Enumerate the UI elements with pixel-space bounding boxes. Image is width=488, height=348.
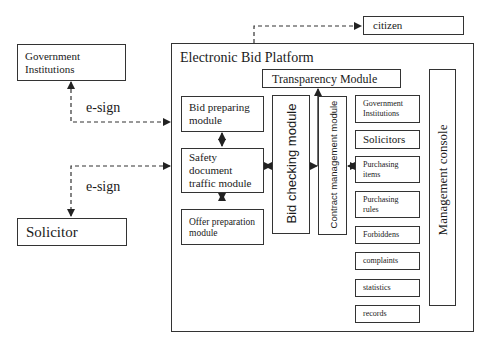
offer-preparation-module: Offer preparation module [181,209,264,245]
data-item-government-institutions: Government Institutions [355,95,420,123]
data-item-label: Purchasing items [363,160,399,179]
data-item-label: complaints [363,256,398,266]
data-item-label: Purchasing rules [363,195,399,214]
contract-management-module-label: Contract management module [328,95,339,235]
data-item-solicitors: Solicitors [355,130,420,149]
data-item-forbiddens: Forbiddens [355,226,420,244]
data-item-label: statistics [363,283,391,293]
platform-title: Electronic Bid Platform [180,50,314,67]
solicitor-label: Solicitor [26,223,78,241]
bid-checking-module-label: Bid checking module [284,94,299,234]
data-item-label: records [363,309,387,319]
bid-preparing-module-label: Bid preparing module [189,101,250,127]
esign-label-bottom: e-sign [86,179,120,196]
solicitor-box: Solicitor [17,218,127,246]
data-item-records: records [355,305,420,323]
citizen-box: citizen [363,16,464,35]
management-console-label: Management console [435,110,451,250]
transparency-module: Transparency Module [262,69,401,88]
data-item-complaints: complaints [355,252,420,270]
safety-document-module-label: Safety document traffic module [189,151,251,191]
data-item-label: Government Institutions [363,99,403,118]
bid-preparing-module: Bid preparing module [181,96,264,132]
data-item-statistics: statistics [355,279,420,297]
government-institutions-label: Government Institutions [25,50,80,76]
government-institutions-box: Government Institutions [17,44,126,81]
bid-checking-module: Bid checking module [272,95,310,234]
esign-label-top: e-sign [86,100,120,117]
citizen-label: citizen [373,19,402,32]
data-item-purchasing-items: Purchasing items [355,156,420,183]
contract-management-module: Contract management module [318,96,347,235]
citizen-connector [254,26,361,43]
offer-preparation-module-label: Offer preparation module [189,217,255,240]
data-item-purchasing-rules: Purchasing rules [355,191,420,218]
safety-document-traffic-module: Safety document traffic module [181,148,264,193]
data-item-label: Solicitors [363,133,405,146]
data-item-label: Forbiddens [363,230,399,240]
transparency-module-label: Transparency Module [272,72,377,86]
management-console: Management console [429,69,456,306]
